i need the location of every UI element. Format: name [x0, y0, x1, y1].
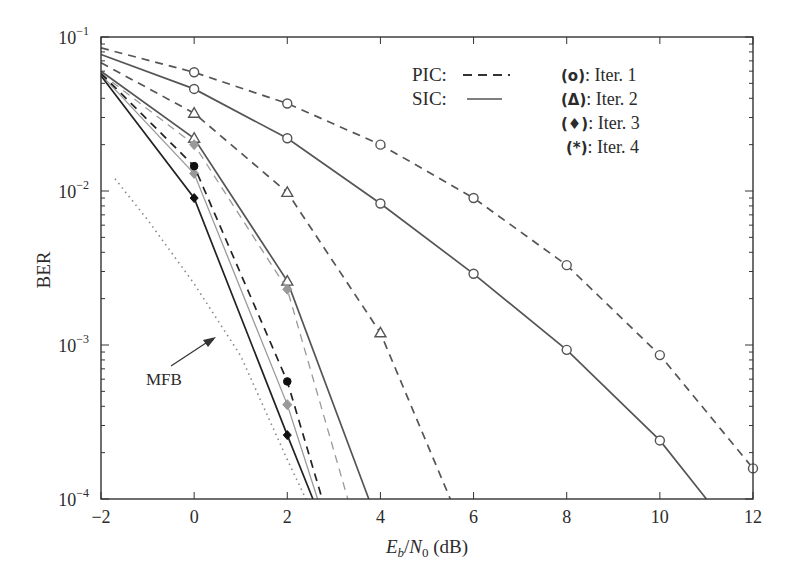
circle-marker-icon: [283, 134, 292, 143]
legend-marker-iter4: (*): Iter. 4: [566, 137, 639, 157]
x-tick-label: 2: [283, 507, 292, 527]
mfb-arrow-head-icon: [203, 337, 216, 347]
legend-pic-label: PIC:: [412, 64, 447, 85]
x-tick-label: 0: [190, 507, 199, 527]
circle-marker-icon: [562, 345, 571, 354]
triangle-marker-icon: [189, 108, 200, 118]
circle-marker-icon: [190, 68, 199, 77]
mfb-arrow-shaft: [171, 341, 209, 366]
legend-markers: (o): Iter. 1 (Δ): Iter. 2 (♦): Iter. 3 (…: [561, 65, 640, 157]
x-tick-label: 10: [651, 507, 669, 527]
circle-marker-icon: [376, 199, 385, 208]
mfb-annotation: MFB: [146, 337, 216, 389]
star-marker-icon: [190, 162, 198, 170]
series-layer: [101, 48, 758, 499]
mfb-label: MFB: [146, 370, 182, 389]
circle-marker-icon: [376, 140, 385, 149]
ber-chart: −202468101210−110−210−310−4 BER Eb/N0 (d…: [0, 0, 797, 586]
x-tick-label: 4: [376, 507, 385, 527]
diamond-marker-icon: [283, 400, 292, 410]
legend-sic-label: SIC:: [412, 88, 447, 109]
x-tick-label: 12: [744, 507, 762, 527]
y-tick-label: 10−4: [58, 486, 89, 510]
diamond-marker-icon: [283, 431, 291, 440]
series-line: [101, 73, 348, 499]
x-tick-label: −2: [91, 507, 110, 527]
axis-ticks: −202468101210−110−210−310−4: [58, 24, 762, 527]
circle-marker-icon: [190, 84, 199, 93]
circle-marker-icon: [562, 261, 571, 270]
legend-marker-iter3: (♦): Iter. 3: [561, 113, 640, 133]
legend-line-styles: PIC: SIC:: [412, 64, 510, 109]
series-line: [101, 48, 753, 469]
y-tick-label: 10−2: [58, 178, 89, 202]
circle-marker-icon: [469, 269, 478, 278]
series-line: [101, 76, 313, 499]
y-axis-label: BER: [33, 251, 54, 288]
y-tick-label: 10−1: [58, 24, 89, 48]
circle-marker-icon: [655, 351, 664, 360]
legend-marker-iter1: (o): Iter. 1: [561, 65, 637, 85]
x-tick-label: 8: [562, 507, 571, 527]
star-marker-icon: [283, 378, 291, 386]
circle-marker-icon: [283, 99, 292, 108]
x-axis-label: Eb/N0 (dB): [385, 536, 468, 560]
x-tick-label: 6: [469, 507, 478, 527]
triangle-marker-icon: [375, 327, 386, 337]
triangle-marker-icon: [282, 187, 293, 197]
circle-marker-icon: [469, 194, 478, 203]
y-tick-label: 10−3: [58, 332, 89, 356]
circle-marker-icon: [655, 436, 664, 445]
legend-marker-iter2: (Δ): Iter. 2: [561, 89, 638, 109]
